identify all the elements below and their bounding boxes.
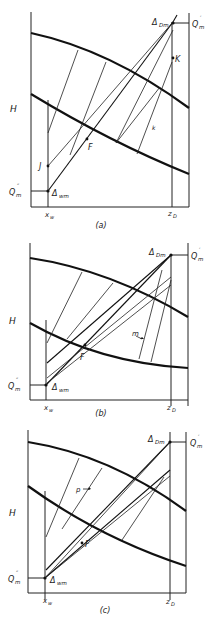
tie-line [70, 62, 106, 155]
svg-text:Δ: Δ [148, 248, 154, 257]
panel-c: H Q m ″ Q m ′ Δ Dm Δ wm F p x w z D (c) [8, 430, 202, 615]
tie-line [48, 50, 78, 133]
caption-c: (c) [100, 606, 111, 615]
svg-text:z: z [166, 404, 171, 412]
delta-dm-label: Δ Dm [147, 435, 165, 445]
svg-text:″: ″ [16, 569, 19, 576]
point-K [172, 57, 175, 60]
h-axis-label: H [9, 316, 16, 326]
svg-text:wm: wm [59, 193, 69, 199]
svg-text:D: D [172, 407, 176, 413]
label-F: F [80, 353, 85, 362]
delta-tick [173, 15, 177, 22]
h-axis-label: H [9, 508, 16, 518]
delta-dm-label: Δ Dm [151, 18, 169, 28]
svg-text:z: z [165, 598, 170, 606]
label-p: p [75, 486, 81, 494]
operating-line [47, 277, 171, 378]
liquid-curve [28, 486, 186, 566]
liquid-curve [31, 94, 189, 174]
svg-text:Q: Q [190, 439, 196, 448]
delta-dm-point [168, 440, 171, 443]
svg-text:Q: Q [192, 20, 198, 29]
q-dprime-label: Q m ″ [9, 182, 21, 198]
ponchon-savarit-diagrams: H Q m ″ Q m ′ Δ Dm Δ wm J F K k x w z D [0, 0, 211, 625]
svg-text:′: ′ [200, 14, 202, 21]
svg-text:Δ: Δ [49, 576, 55, 585]
svg-text:wm: wm [59, 387, 69, 393]
vapor-curve [31, 33, 189, 108]
delta-dm-point [169, 253, 172, 256]
zd-label: z D [167, 210, 177, 219]
svg-text:w: w [48, 600, 53, 606]
svg-text:m: m [199, 24, 204, 30]
panel-b: H Q m ″ Q m ′ Δ Dm Δ wm F m x w z D (b) [8, 243, 203, 418]
q-prime-label: Q m ′ [191, 246, 203, 262]
svg-text:″: ″ [17, 182, 20, 189]
delta-dm-label: Δ Dm [148, 248, 166, 258]
svg-text:′: ′ [199, 246, 201, 253]
svg-text:m: m [15, 579, 20, 585]
tie-line [137, 62, 172, 154]
caption-b: (b) [95, 409, 106, 418]
svg-text:Dm: Dm [159, 22, 169, 28]
h-axis-label: H [10, 104, 17, 114]
tie-line [151, 280, 171, 362]
caption-a: (a) [95, 221, 106, 230]
operating-line-F [48, 22, 173, 191]
svg-text:m: m [198, 256, 203, 262]
svg-text:′: ′ [198, 433, 200, 440]
operating-line [46, 442, 170, 570]
operating-line [47, 285, 171, 383]
svg-text:D: D [173, 213, 177, 219]
delta-wm-point [46, 189, 49, 192]
svg-text:Δ: Δ [51, 383, 57, 392]
q-dprime-label: Q m ″ [8, 569, 20, 585]
svg-text:m: m [16, 192, 21, 198]
q-prime-label: Q m ′ [192, 14, 204, 30]
label-m: m [132, 330, 139, 338]
q-dprime-label: Q m ″ [8, 376, 20, 392]
point-J [47, 165, 50, 168]
q-prime-label: Q m ′ [190, 433, 202, 449]
svg-text:Q: Q [9, 188, 15, 197]
svg-text:Δ: Δ [147, 435, 153, 444]
label-F: F [85, 540, 90, 549]
delta-wm-label: Δ wm [51, 383, 69, 393]
label-F: F [88, 143, 93, 152]
point-F [84, 344, 87, 347]
svg-text:Δ: Δ [51, 189, 57, 198]
delta-wm-point [43, 576, 46, 579]
panel-a: H Q m ″ Q m ′ Δ Dm Δ wm J F K k x w z D [9, 12, 204, 230]
tie-line [47, 272, 82, 343]
svg-text:w: w [50, 214, 55, 220]
svg-text:m: m [15, 386, 20, 392]
svg-text:z: z [167, 210, 172, 218]
svg-text:wm: wm [57, 580, 67, 586]
svg-text:D: D [171, 601, 175, 607]
delta-wm-label: Δ wm [49, 576, 67, 586]
svg-text:Dm: Dm [155, 439, 165, 445]
operating-line-F [46, 470, 170, 577]
delta-wm-point [44, 383, 47, 386]
point-F [81, 542, 84, 545]
label-J: J [37, 162, 42, 171]
delta-wm-label: Δ wm [51, 189, 69, 199]
svg-text:Q: Q [191, 252, 197, 261]
svg-text:Q: Q [8, 382, 14, 391]
operating-line [47, 255, 171, 363]
label-K: K [175, 55, 181, 64]
svg-text:″: ″ [16, 376, 19, 383]
operating-line [116, 30, 173, 143]
svg-text:Dm: Dm [156, 252, 166, 258]
delta-dm-point [171, 21, 174, 24]
tie-line [46, 458, 79, 537]
xw-label: x w [44, 211, 55, 220]
svg-text:w: w [49, 407, 54, 413]
tie-line [116, 87, 160, 143]
svg-text:m: m [197, 443, 202, 449]
xw-label: x w [43, 404, 54, 413]
point-F [86, 138, 89, 141]
svg-text:Q: Q [8, 575, 14, 584]
svg-text:Δ: Δ [151, 18, 157, 27]
